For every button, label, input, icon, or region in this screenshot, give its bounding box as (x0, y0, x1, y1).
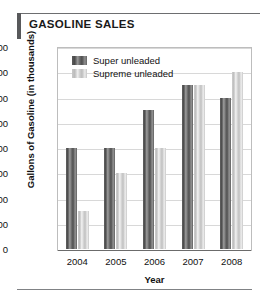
y-tick-label: 500 (0, 118, 8, 129)
legend-item-label: Supreme unleaded (93, 68, 173, 79)
x-tick-label: 2005 (96, 256, 136, 267)
legend-item: Supreme unleaded (72, 67, 173, 80)
chart-title: GASOLINE SALES (29, 18, 135, 30)
bar (155, 148, 166, 249)
legend-item: Super unleaded (72, 54, 173, 67)
bar (194, 85, 205, 249)
bar (78, 211, 89, 249)
y-axis-title: Gallons of Gasoline (in thousands) (25, 25, 36, 195)
legend-item-label: Super unleaded (93, 55, 160, 66)
bar (116, 173, 127, 249)
y-tick-label: 600 (0, 93, 8, 104)
bar (232, 72, 243, 249)
y-tick-label: 400 (0, 143, 8, 154)
x-tick-label: 2007 (173, 256, 213, 267)
bar (182, 85, 193, 249)
y-tick-label: 700 (0, 67, 8, 78)
bar-group (174, 48, 213, 250)
title-top-rule (17, 13, 260, 14)
x-axis-title: Year (57, 274, 252, 285)
title-accent-bar (17, 13, 21, 39)
x-tick-label: 2004 (57, 256, 97, 267)
y-tick-label: 100 (0, 219, 8, 230)
gridline (58, 250, 251, 251)
chart-legend: Super unleaded Supreme unleaded (72, 54, 173, 80)
bar (66, 148, 77, 249)
title-band: GASOLINE SALES (17, 13, 260, 39)
y-tick-label: 200 (0, 194, 8, 205)
bar (143, 110, 154, 249)
y-tick-label: 0 (0, 244, 8, 255)
y-tick-label: 300 (0, 168, 8, 179)
bottom-rule (17, 289, 252, 290)
bar-group (212, 48, 251, 250)
bar (220, 98, 231, 250)
plot-inner: Super unleaded Supreme unleaded (58, 48, 251, 250)
bar (104, 148, 115, 249)
x-tick-label: 2008 (212, 256, 252, 267)
super-unleaded-swatch (72, 56, 87, 65)
x-tick-label: 2006 (135, 256, 175, 267)
y-tick-label: 800 (0, 42, 8, 53)
supreme-unleaded-swatch (72, 69, 87, 78)
gasoline-sales-figure: GASOLINE SALES Gallons of Gasoline (in t… (0, 0, 269, 298)
plot-area: Super unleaded Supreme unleaded (57, 47, 252, 251)
